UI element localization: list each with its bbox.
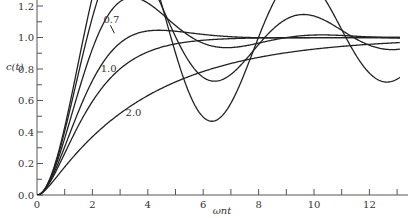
curve-label: 2.0 (126, 107, 142, 118)
axes: 0246810120.00.20.40.60.81.01.2 (18, 0, 408, 210)
y-tick-label: 0.6 (18, 95, 34, 106)
step-response-chart: 0246810120.00.20.40.60.81.01.2 0.71.02.0… (0, 0, 409, 218)
x-tick-label: 8 (255, 199, 261, 210)
curve-zeta-1 (37, 38, 400, 196)
y-tick-label: 0.2 (18, 158, 34, 169)
curves (37, 0, 400, 195)
x-axis-title: ωnt (213, 205, 233, 216)
x-tick-label: 12 (363, 199, 376, 210)
curve-zeta-0.1 (37, 0, 400, 195)
x-tick-label: 4 (145, 199, 151, 210)
x-tick-label: 2 (89, 199, 95, 210)
curve-label: 1.0 (101, 63, 117, 74)
y-tick-label: 1.0 (18, 32, 34, 43)
curve-zeta-0.2 (37, 0, 400, 195)
y-axis-title: c(t) (6, 61, 24, 72)
x-tick-label: 10 (308, 199, 321, 210)
curve-zeta-0.7 (37, 30, 400, 195)
y-tick-label: 0.4 (18, 127, 34, 138)
y-tick-label: 0.0 (18, 190, 34, 201)
curve-zeta-0.4 (37, 0, 400, 195)
curve-label: 0.7 (103, 14, 119, 25)
label-arrow (110, 25, 114, 33)
x-tick-label: 6 (200, 199, 206, 210)
x-tick-label: 0 (34, 199, 40, 210)
y-tick-label: 1.2 (18, 1, 34, 12)
